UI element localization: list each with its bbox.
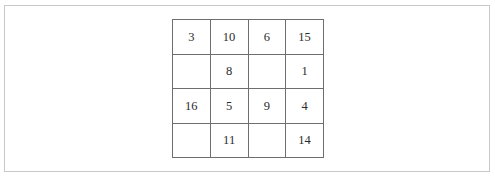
grid-cell[interactable]: 5 <box>211 89 249 124</box>
grid-cell[interactable]: 15 <box>286 20 324 55</box>
grid-cell-empty[interactable] <box>249 55 287 90</box>
grid-cell[interactable]: 14 <box>286 124 324 159</box>
grid-cell[interactable]: 16 <box>173 89 211 124</box>
grid-cell[interactable]: 3 <box>173 20 211 55</box>
grid-cell[interactable]: 8 <box>211 55 249 90</box>
number-puzzle-grid[interactable]: 31061581165941114 <box>172 19 324 158</box>
grid-cell[interactable]: 10 <box>211 20 249 55</box>
page-canvas: 31061581165941114 <box>0 0 495 179</box>
grid-cell-empty[interactable] <box>249 124 287 159</box>
grid-cell[interactable]: 1 <box>286 55 324 90</box>
grid-cell[interactable]: 11 <box>211 124 249 159</box>
grid-cell[interactable]: 4 <box>286 89 324 124</box>
grid-cell-empty[interactable] <box>173 55 211 90</box>
grid-cell-empty[interactable] <box>173 124 211 159</box>
grid-cell[interactable]: 6 <box>249 20 287 55</box>
grid-cell[interactable]: 9 <box>249 89 287 124</box>
